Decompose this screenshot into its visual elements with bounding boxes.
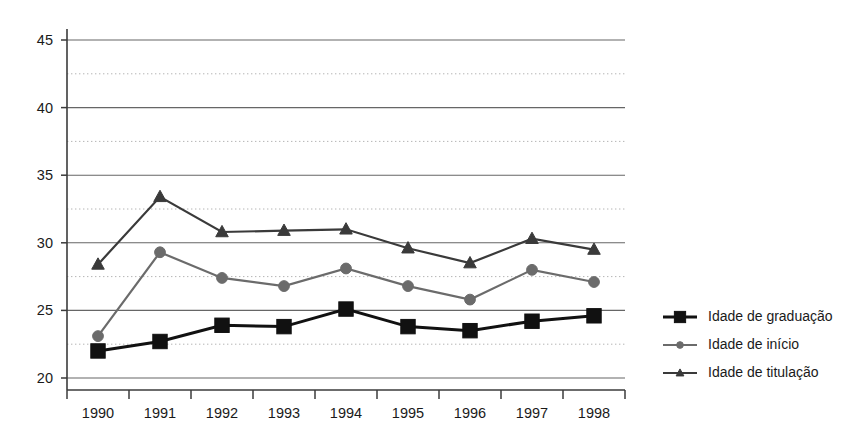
circle-marker [527,264,538,275]
circle-marker [403,281,414,292]
square-marker [215,318,229,332]
x-axis-tick-label: 1994 [330,405,362,421]
square-marker [277,319,291,333]
x-axis-tick-label: 1998 [578,405,610,421]
x-axis-tick-label: 1997 [516,405,548,421]
legend-label: Idade de graduação [708,308,833,324]
square-marker [339,302,353,316]
y-axis-tick-label: 40 [37,100,53,116]
x-axis-tick-label: 1991 [144,405,176,421]
x-axis-tick-label: 1996 [454,405,486,421]
y-axis-tick-label: 45 [37,32,53,48]
x-axis-tick-label: 1993 [268,405,300,421]
circle-marker [465,294,476,305]
square-marker [153,334,167,348]
x-axis-tick-label: 1992 [206,405,238,421]
circle-marker [279,281,290,292]
circle-marker [677,342,684,349]
y-axis-tick-label: 30 [37,235,53,251]
square-marker [401,319,415,333]
circle-marker [93,331,104,342]
y-axis-tick-label: 25 [37,302,53,318]
x-axis-tick-label: 1995 [392,405,424,421]
line-chart: 202530354045 199019911992199319941995199… [0,0,867,432]
square-marker [91,344,105,358]
legend-label: Idade de titulação [708,364,819,380]
chart-container: 202530354045 199019911992199319941995199… [0,0,867,432]
x-axis-tick-label: 1990 [82,405,114,421]
square-marker [587,309,601,323]
circle-marker [155,247,166,258]
square-marker [674,311,685,322]
x-axis-tick-labels: 199019911992199319941995199619971998 [82,405,610,421]
circle-marker [341,263,352,274]
y-axis-tick-label: 35 [37,167,53,183]
square-marker [525,314,539,328]
circle-marker [589,277,600,288]
circle-marker [217,273,228,284]
legend-label: Idade de início [708,336,799,352]
y-axis-tick-label: 20 [37,370,53,386]
square-marker [463,323,477,337]
